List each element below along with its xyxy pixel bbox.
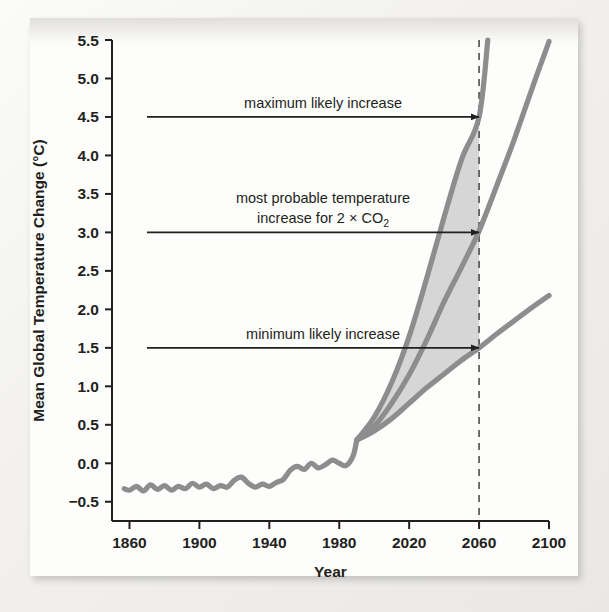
- curve-observed-record: [124, 440, 356, 491]
- figure-page: −0.50.00.51.01.52.02.53.03.54.04.55.05.5…: [0, 0, 609, 612]
- y-tick-label: 1.0: [77, 378, 99, 395]
- y-axis-tick-labels: −0.50.00.51.01.52.02.53.03.54.04.55.05.5: [68, 32, 99, 511]
- y-tick-label: 5.0: [77, 70, 99, 87]
- y-tick-label: 1.5: [77, 339, 99, 356]
- x-tick-label: 1860: [112, 534, 146, 551]
- y-tick-label: 3.0: [77, 224, 99, 241]
- x-tick-label: 2020: [392, 534, 426, 551]
- x-tick-label: 2100: [532, 534, 566, 551]
- y-tick-label: 0.0: [77, 455, 99, 472]
- temperature-projection-chart: −0.50.00.51.01.52.02.53.03.54.04.55.05.5…: [0, 0, 609, 612]
- x-axis-ticks: [129, 521, 549, 529]
- x-axis-title: Year: [314, 563, 347, 580]
- x-tick-label: 2060: [462, 534, 496, 551]
- x-tick-label: 1900: [182, 534, 216, 551]
- annotation-probable-subscript: 2: [383, 217, 389, 229]
- y-axis-ticks: [105, 40, 112, 502]
- y-tick-label: 2.5: [77, 262, 99, 279]
- y-tick-label: 4.0: [77, 147, 99, 164]
- annotation-min-label: minimum likely increase: [246, 326, 400, 342]
- y-tick-label: 2.0: [77, 301, 99, 318]
- x-tick-label: 1940: [252, 534, 286, 551]
- x-tick-label: 1980: [322, 534, 356, 551]
- y-axis-title: Mean Global Temperature Change (°C): [30, 139, 47, 421]
- annotation-probable-label-line1: most probable temperature: [236, 190, 410, 206]
- y-tick-label: 3.5: [77, 185, 99, 202]
- annotation-max-label: maximum likely increase: [244, 95, 402, 111]
- y-tick-label: −0.5: [68, 493, 99, 510]
- y-tick-label: 5.5: [77, 32, 99, 49]
- annotation-probable-text: increase for 2 × CO: [257, 210, 383, 226]
- annotation-probable-label-line2: increase for 2 × CO2: [257, 210, 389, 229]
- y-tick-label: 0.5: [77, 416, 99, 433]
- x-axis-tick-labels: 1860190019401980202020602100: [112, 534, 566, 551]
- y-tick-label: 4.5: [77, 108, 99, 125]
